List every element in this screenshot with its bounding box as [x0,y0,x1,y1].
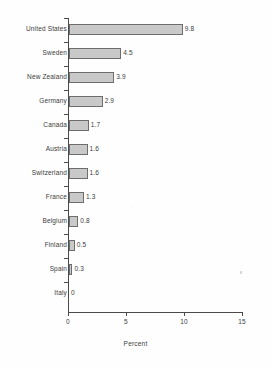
plot-area: 0 5 10 15 United States Sweden New Zeala… [0,0,271,368]
category-label: Switzerland [32,169,67,176]
bar-value-label: 0 [71,289,75,296]
bar-value-label: 2.9 [105,97,115,104]
bar-value-label: 1.7 [91,121,101,128]
scan-artifact-speck [132,206,133,207]
bar-value-label: 0.5 [77,241,87,248]
bar [69,168,88,179]
y-axis-tick [64,18,68,19]
y-axis-tick [64,258,68,259]
category-label: Canada [43,121,67,128]
category-label: Sweden [43,49,67,56]
bar-value-label: 0.3 [74,265,84,272]
bar-value-label: 3.9 [116,73,126,80]
x-tick-label: 10 [174,318,194,325]
y-axis-tick [64,42,68,43]
category-label: Spain [50,265,67,272]
bar-value-label: 1.6 [90,145,100,152]
category-label: Germany [39,97,67,104]
y-axis-tick [64,114,68,115]
x-tick-label: 5 [116,318,136,325]
scan-artifact-speck [240,271,242,274]
category-label: Italy [54,289,67,296]
bar [69,264,72,275]
y-axis-tick [64,186,68,187]
x-axis-tick [126,312,127,316]
y-axis-tick [64,138,68,139]
x-axis-title: Percent [0,340,271,347]
category-label: New Zealand [27,73,67,80]
y-axis-tick [64,162,68,163]
bar [69,24,183,35]
category-label: United States [26,25,67,32]
bar [69,192,84,203]
y-axis-tick [64,90,68,91]
bar [69,120,89,131]
category-label: France [46,193,67,200]
bar [69,216,78,227]
bar [69,72,114,83]
x-axis-line [68,312,243,313]
bar [69,144,88,155]
category-label: Finland [45,241,67,248]
bar [69,240,75,251]
x-axis-tick [184,312,185,316]
bar-chart: 0 5 10 15 United States Sweden New Zeala… [0,0,271,368]
bar-value-label: 4.5 [123,49,133,56]
x-axis-tick [242,312,243,316]
bar-value-label: 1.6 [90,169,100,176]
y-axis-tick [64,282,68,283]
x-tick-label: 0 [58,318,78,325]
bar-value-label: 9.8 [185,25,195,32]
bar [69,96,103,107]
category-label: Austria [46,145,67,152]
category-label: Belgium [42,217,67,224]
bar-value-label: 0.8 [80,217,90,224]
y-axis-tick [64,234,68,235]
y-axis-tick [64,210,68,211]
x-axis-tick [68,312,69,316]
x-tick-label: 15 [232,318,252,325]
y-axis-tick [64,66,68,67]
bar-value-label: 1.3 [86,193,96,200]
bar [69,48,121,59]
